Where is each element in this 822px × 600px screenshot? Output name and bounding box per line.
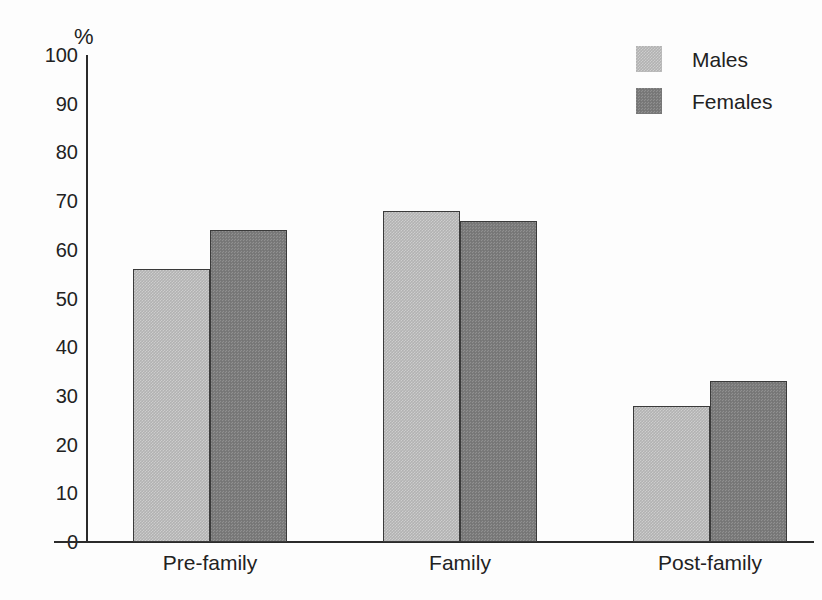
legend-label: Males [692,49,748,70]
bar-pre-family-females [210,230,287,542]
legend-swatch-males [636,46,662,72]
plot-area [87,55,802,542]
x-axis-category-label: Family [360,551,560,575]
y-axis-tick-labels: 0102030405060708090100 [0,0,78,600]
y-axis-tick-label: 50 [32,289,78,309]
legend-swatch-females [636,88,662,114]
bar-family-females [460,221,537,542]
y-axis-tick-label: 60 [32,240,78,260]
bar-post-family-males [633,406,710,542]
y-axis-tick-label: 20 [32,435,78,455]
bar-post-family-females [710,381,787,542]
y-axis-tick-label: 80 [32,142,78,162]
y-axis-tick-label: 10 [32,483,78,503]
legend-item-males: Males [636,38,816,80]
bar-chart-figure: % 0102030405060708090100 Pre-familyFamil… [0,0,822,600]
x-axis-category-label: Pre-family [110,551,310,575]
y-axis-tick-label: 90 [32,94,78,114]
y-axis-tick-label: 40 [32,337,78,357]
x-axis-category-label: Post-family [610,551,810,575]
legend-item-females: Females [636,80,816,122]
bar-family-males [383,211,460,542]
legend-label: Females [692,91,773,112]
y-axis-tick-label: 70 [32,191,78,211]
y-axis-tick-label: 100 [32,45,78,65]
y-axis-tick-label: 30 [32,386,78,406]
bar-pre-family-males [133,269,210,542]
chart-legend: MalesFemales [636,38,816,122]
